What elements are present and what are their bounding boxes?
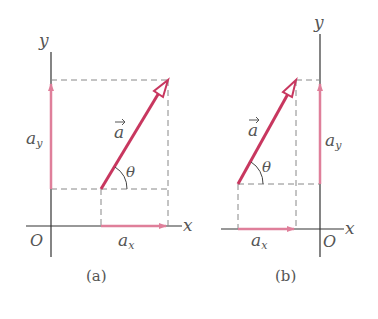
theta-label: θ bbox=[126, 163, 135, 181]
caption-a: (a) bbox=[86, 267, 107, 285]
vector-a-arrowhead-icon bbox=[283, 80, 296, 97]
y-axis-label: y bbox=[313, 12, 324, 32]
ay-label: ay bbox=[325, 130, 342, 152]
panel-a: y x O ay ax a θ (a) bbox=[26, 30, 193, 285]
origin-label: O bbox=[323, 232, 336, 251]
vector-a-arrowhead-icon bbox=[154, 80, 168, 97]
ax-label: ax bbox=[251, 230, 268, 252]
x-axis-label: x bbox=[183, 215, 193, 235]
y-axis-label: y bbox=[38, 30, 49, 50]
theta-label: θ bbox=[262, 158, 271, 176]
origin-label: O bbox=[30, 231, 43, 250]
dashed-guides bbox=[238, 80, 320, 229]
ay-label: ay bbox=[26, 128, 43, 150]
x-axis-label: x bbox=[345, 218, 355, 238]
panel-b: y x O ay ax a θ (b) bbox=[221, 12, 355, 285]
ax-label: ax bbox=[118, 230, 135, 252]
caption-b: (b) bbox=[275, 267, 296, 285]
dashed-guides bbox=[51, 80, 168, 226]
vector-components-figure: y x O ay ax a θ (a) y x O ay ax a θ (b) bbox=[0, 0, 378, 319]
